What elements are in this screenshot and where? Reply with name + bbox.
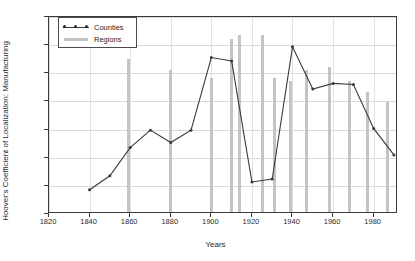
counties-polyline: [90, 47, 394, 190]
legend-line-swatch: [63, 23, 89, 31]
x-axis-label-text: Years: [205, 240, 225, 249]
y-tick-mark: [44, 16, 48, 17]
chart-legend: Counties Regions: [58, 17, 137, 48]
counties-marker: [372, 127, 375, 130]
legend-label-regions: Regions: [94, 35, 122, 44]
x-tick-label: 1900: [202, 217, 219, 226]
x-tick-label: 1920: [243, 217, 260, 226]
x-tick-mark: [251, 213, 252, 217]
x-tick-label: 1960: [324, 217, 341, 226]
x-tick-label: 1820: [40, 217, 57, 226]
y-tick-mark: [44, 44, 48, 45]
counties-marker: [169, 141, 172, 144]
counties-marker: [392, 153, 395, 156]
x-tick-mark: [373, 213, 374, 217]
x-tick-label: 1860: [121, 217, 138, 226]
counties-marker: [311, 88, 314, 91]
legend-bar-swatch: [63, 35, 89, 43]
counties-marker: [332, 82, 335, 85]
x-tick-mark: [48, 213, 49, 217]
x-tick-mark: [291, 213, 292, 217]
y-tick-mark: [44, 157, 48, 158]
counties-marker: [149, 129, 152, 132]
y-tick-mark: [44, 185, 48, 186]
y-tick-mark: [44, 129, 48, 130]
counties-marker: [352, 83, 355, 86]
x-tick-mark: [129, 213, 130, 217]
counties-marker: [190, 129, 193, 132]
x-tick-label: 1880: [161, 217, 178, 226]
counties-marker: [108, 174, 111, 177]
chart-figure: Hoover's Coefficient of Localization: Ma…: [0, 0, 415, 261]
legend-item-regions: Regions: [63, 33, 132, 45]
counties-marker: [291, 45, 294, 48]
y-axis-label-text: Hoover's Coefficient of Localization: Ma…: [1, 41, 10, 221]
counties-marker: [210, 56, 213, 59]
counties-marker: [250, 180, 253, 183]
counties-marker: [88, 188, 91, 191]
legend-item-counties: Counties: [63, 21, 132, 33]
counties-marker: [271, 178, 274, 181]
x-tick-mark: [332, 213, 333, 217]
x-tick-label: 1840: [80, 217, 97, 226]
x-tick-label: 1980: [364, 217, 381, 226]
y-tick-mark: [44, 100, 48, 101]
counties-marker: [129, 146, 132, 149]
x-tick-label: 1940: [283, 217, 300, 226]
x-tick-mark: [210, 213, 211, 217]
x-tick-mark: [89, 213, 90, 217]
counties-marker: [230, 59, 233, 62]
x-tick-mark: [170, 213, 171, 217]
y-tick-mark: [44, 72, 48, 73]
y-axis-label: Hoover's Coefficient of Localization: Ma…: [0, 0, 12, 261]
legend-label-counties: Counties: [94, 23, 124, 32]
x-axis-label: Years: [0, 240, 415, 249]
